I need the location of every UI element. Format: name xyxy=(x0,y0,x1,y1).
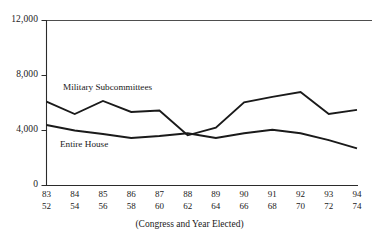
x-tick-congress: 86 xyxy=(117,189,145,201)
x-tick-label-90: 9066 xyxy=(230,189,258,212)
x-tick-year: 64 xyxy=(202,201,230,213)
x-tick-label-89: 8964 xyxy=(202,189,230,212)
x-tick-label-84: 8454 xyxy=(61,189,89,212)
x-tick-year: 52 xyxy=(33,201,61,213)
x-tick-year: 62 xyxy=(174,201,202,213)
series-label-entire-house: Entire House xyxy=(60,139,108,150)
x-tick-year: 70 xyxy=(287,201,315,213)
x-tick-label-92: 9270 xyxy=(287,189,315,212)
x-tick-year: 74 xyxy=(343,201,371,213)
y-tick-label-0: 0 xyxy=(0,179,38,189)
line-chart: 12,000 8,000 4,000 0 8352845485568658876… xyxy=(0,0,379,241)
x-tick-congress: 85 xyxy=(89,189,117,201)
x-tick-year: 68 xyxy=(258,201,286,213)
x-tick-label-83: 8352 xyxy=(33,189,61,212)
y-tick-label-8000: 8,000 xyxy=(0,69,38,79)
x-tick-congress: 94 xyxy=(343,189,371,201)
x-tick-year: 66 xyxy=(230,201,258,213)
y-tick-label-4000: 4,000 xyxy=(0,124,38,134)
x-tick-congress: 84 xyxy=(61,189,89,201)
x-tick-label-87: 8760 xyxy=(145,189,173,212)
x-axis-caption: (Congress and Year Elected) xyxy=(0,218,379,230)
x-tick-congress: 92 xyxy=(287,189,315,201)
x-tick-label-86: 8658 xyxy=(117,189,145,212)
y-tick-label-12000: 12,000 xyxy=(0,14,38,24)
x-tick-label-93: 9372 xyxy=(315,189,343,212)
x-tick-congress: 88 xyxy=(174,189,202,201)
x-tick-year: 56 xyxy=(89,201,117,213)
x-tick-year: 72 xyxy=(315,201,343,213)
x-tick-congress: 89 xyxy=(202,189,230,201)
x-tick-congress: 87 xyxy=(145,189,173,201)
x-tick-congress: 91 xyxy=(258,189,286,201)
x-tick-label-85: 8556 xyxy=(89,189,117,212)
x-tick-congress: 93 xyxy=(315,189,343,201)
series-line-military-subcommittees xyxy=(47,92,358,135)
series-label-military-subcommittees: Military Subcommittees xyxy=(63,82,152,93)
x-tick-label-88: 8862 xyxy=(174,189,202,212)
x-tick-year: 58 xyxy=(117,201,145,213)
x-tick-year: 60 xyxy=(145,201,173,213)
x-tick-label-94: 9474 xyxy=(343,189,371,212)
x-tick-year: 54 xyxy=(61,201,89,213)
x-tick-label-91: 9168 xyxy=(258,189,286,212)
x-tick-congress: 83 xyxy=(33,189,61,201)
x-tick-congress: 90 xyxy=(230,189,258,201)
